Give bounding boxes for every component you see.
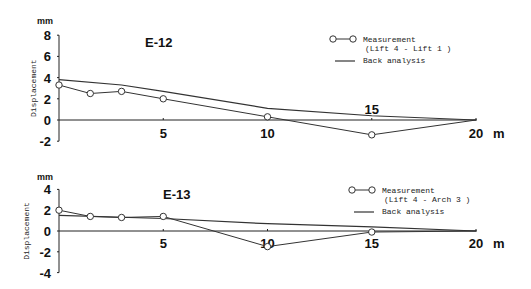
- y-axis-label: Displacement: [22, 202, 31, 260]
- x-tick-label: 10: [260, 126, 274, 141]
- measurement-point: [56, 82, 62, 88]
- y-tick-label: 2: [44, 92, 51, 107]
- chart-title: E-13: [163, 187, 190, 202]
- y-tick-label: 2: [44, 203, 51, 218]
- chart-e-13: 420-2-45101520mmmDisplacementE-13Measure…: [22, 172, 505, 281]
- legend-measurement-sub: (Lift 4 - Arch 3 ): [384, 195, 470, 204]
- x-tick-label: 5: [160, 236, 167, 251]
- legend-measurement: Measurement: [382, 186, 435, 195]
- legend-measurement-sub: (Lift 4 - Lift 1 ): [365, 44, 451, 53]
- measurement-point: [160, 213, 166, 219]
- chart-title: E-12: [145, 35, 172, 50]
- x-unit: m: [493, 126, 505, 141]
- x-tick-label: 20: [469, 126, 483, 141]
- x-tick-label: 20: [469, 236, 483, 251]
- y-tick-label: 8: [44, 28, 51, 43]
- y-tick-label: 0: [44, 224, 51, 239]
- legend: Measurement(Lift 4 - Arch 3 )Back analys…: [349, 186, 471, 216]
- y-tick-label: 6: [44, 49, 51, 64]
- y-tick-label: 4: [44, 182, 52, 197]
- displacement-charts: 86420-25101520mmmDisplacementE-12Measure…: [0, 0, 531, 289]
- measurement-point: [160, 96, 166, 102]
- measurement-point: [264, 243, 270, 249]
- x-tick-label: 15: [365, 102, 379, 117]
- x-tick-label: 5: [160, 126, 167, 141]
- legend-back-analysis: Back analysis: [382, 207, 445, 216]
- legend-marker-icon: [349, 187, 355, 193]
- y-tick-label: 4: [44, 71, 52, 86]
- measurement-point: [87, 90, 93, 96]
- legend-marker-icon: [330, 36, 336, 42]
- y-unit: mm: [37, 172, 53, 182]
- measurement-point: [369, 229, 375, 235]
- y-unit: mm: [37, 16, 53, 26]
- y-tick-label: -2: [39, 245, 51, 260]
- y-tick-label: -4: [39, 266, 51, 281]
- measurement-point: [264, 114, 270, 120]
- legend-measurement: Measurement: [363, 35, 416, 44]
- x-unit: m: [493, 236, 505, 251]
- y-tick-label: 0: [44, 113, 51, 128]
- measurement-point: [87, 213, 93, 219]
- measurement-point: [369, 132, 375, 138]
- legend-back-analysis: Back analysis: [363, 56, 426, 65]
- measurement-point: [118, 88, 124, 94]
- legend: Measurement(Lift 4 - Lift 1 )Back analys…: [330, 35, 452, 65]
- measurement-point: [56, 207, 62, 213]
- measurement-point: [118, 214, 124, 220]
- y-tick-label: -2: [39, 134, 51, 149]
- chart-e-12: 86420-25101520mmmDisplacementE-12Measure…: [29, 16, 505, 149]
- y-axis-label: Displacement: [29, 59, 38, 117]
- x-tick-label: 15: [365, 236, 379, 251]
